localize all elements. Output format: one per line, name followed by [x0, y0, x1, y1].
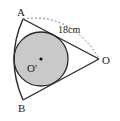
center-dot-O-prime	[39, 57, 42, 60]
label-radius-18cm: 18cm	[58, 24, 80, 35]
label-O-prime: O'	[27, 62, 37, 74]
label-O: O	[102, 54, 110, 66]
sector-diagram: A B O O' 18cm	[0, 0, 120, 121]
label-B: B	[18, 102, 25, 114]
label-A: A	[17, 6, 25, 18]
